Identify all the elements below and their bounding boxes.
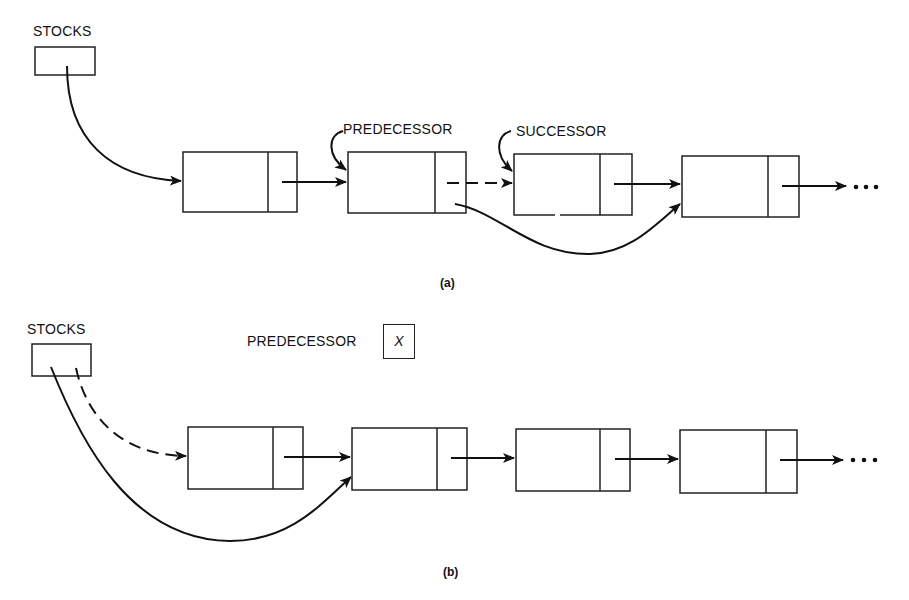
part-a	[35, 47, 878, 254]
new-head-link-b	[51, 367, 351, 541]
predecessor-label-b: PREDECESSOR	[247, 333, 357, 349]
stocks-head-box-b	[32, 344, 91, 376]
successor-pointer-arrow-a	[499, 131, 512, 171]
list-node-a1	[183, 152, 297, 212]
successor-label-a: SUCCESSOR	[516, 123, 606, 139]
stocks-label-a: STOCKS	[33, 23, 92, 39]
continuation-dots-b	[851, 458, 878, 463]
continuation-dots-a	[854, 185, 879, 190]
list-node-b4	[680, 430, 797, 493]
linked-list-diagram	[0, 0, 909, 600]
dashed-old-head-link-b	[76, 368, 186, 456]
caption-a: (a)	[440, 276, 455, 290]
part-b	[32, 344, 877, 541]
stocks-head-box-a	[35, 47, 95, 75]
predecessor-value-box-b: X	[383, 324, 415, 359]
stocks-label-b: STOCKS	[27, 321, 86, 337]
list-node-b2	[352, 428, 467, 490]
list-node-b3	[516, 429, 630, 491]
caption-b: (b)	[443, 565, 458, 579]
list-node-a4	[682, 156, 799, 217]
head-pointer-arrow-a	[67, 66, 181, 181]
predecessor-label-a: PREDECESSOR	[343, 121, 453, 137]
bypass-link-a2-a4	[455, 204, 680, 254]
